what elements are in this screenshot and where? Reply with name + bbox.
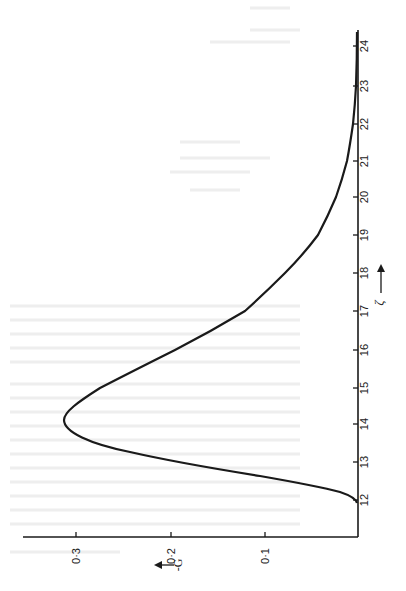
g-tick-label: 0·3 <box>70 548 82 564</box>
zeta-tick-label: 14 <box>358 418 370 430</box>
zeta-tick-label: 12 <box>358 494 370 506</box>
zeta-tick-label: 21 <box>358 155 370 167</box>
zeta-tick-label: 23 <box>358 80 370 92</box>
rotated-line-chart: 12131415161718192021222324 0·10·20·3 ζ -… <box>0 0 406 591</box>
zeta-tick-label: 13 <box>358 456 370 468</box>
zeta-tick-label: 17 <box>358 305 370 317</box>
zeta-arrow-icon <box>377 264 385 272</box>
axes <box>23 30 358 537</box>
zeta-tick-label: 22 <box>358 118 370 130</box>
zeta-tick-label: 16 <box>358 344 370 356</box>
g-tick-label: 0·1 <box>259 548 271 564</box>
zeta-tick-label: 19 <box>358 229 370 241</box>
zeta-tick-label: 18 <box>358 267 370 279</box>
zeta-tick-label: 20 <box>358 191 370 203</box>
zeta-ticks: 12131415161718192021222324 <box>353 40 370 506</box>
zeta-axis-label: ζ <box>371 300 386 306</box>
zeta-axis-label-group: ζ <box>371 264 386 306</box>
show-through-text <box>10 8 300 552</box>
g-arrow-icon <box>154 561 162 569</box>
zeta-tick-label: 15 <box>358 382 370 394</box>
g-curve <box>64 32 357 503</box>
zeta-tick-label: 24 <box>358 40 370 52</box>
